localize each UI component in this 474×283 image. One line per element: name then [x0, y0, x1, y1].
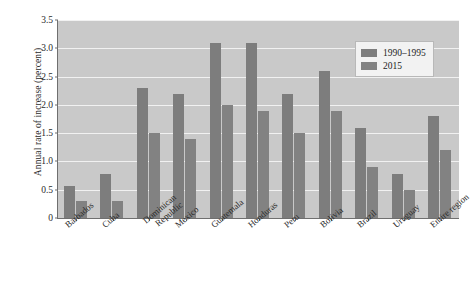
bar: [428, 116, 439, 218]
chart-legend: 1990–1995 2015: [355, 41, 434, 77]
y-tick-label: 3.5: [41, 15, 53, 25]
bar-chart-figure: Annual rate of increase (percent) 00.51.…: [0, 0, 474, 283]
y-tick-label: 1.0: [41, 156, 53, 166]
y-tick-mark: [55, 48, 58, 49]
bar: [210, 43, 221, 218]
bar-group: [313, 20, 349, 218]
bar: [222, 105, 233, 218]
bar: [137, 88, 148, 218]
bar-group: [58, 20, 94, 218]
legend-item-2015: 2015: [361, 59, 426, 72]
y-tick-mark: [55, 218, 58, 219]
y-tick-mark: [55, 133, 58, 134]
bar: [392, 174, 403, 218]
legend-item-1990-1995: 1990–1995: [361, 46, 426, 59]
y-tick-label: 2.0: [41, 100, 53, 110]
y-tick-label: 0.5: [41, 185, 53, 195]
bar: [355, 128, 366, 219]
bar: [100, 174, 111, 218]
y-axis-title: Annual rate of increase (percent): [33, 12, 43, 212]
bar: [282, 94, 293, 218]
y-tick-label: 2.5: [41, 72, 53, 82]
bar: [319, 71, 330, 218]
bar-group: [240, 20, 276, 218]
legend-label-2015: 2015: [383, 61, 402, 71]
legend-swatch-icon-2015: [361, 62, 377, 70]
y-tick-mark: [55, 104, 58, 105]
y-tick-mark: [55, 20, 58, 21]
bar: [294, 133, 305, 218]
bar-group: [167, 20, 203, 218]
bar: [331, 111, 342, 218]
y-tick-label: 1.5: [41, 128, 53, 138]
legend-label-1990-1995: 1990–1995: [383, 48, 426, 58]
y-tick-mark: [55, 161, 58, 162]
y-tick-mark: [55, 189, 58, 190]
bar-group: [204, 20, 240, 218]
x-axis-labels: BarbadosCubaDominicanRepublicMexicoGuate…: [57, 222, 458, 283]
bar-group: [131, 20, 167, 218]
bar-group: [277, 20, 313, 218]
bar: [258, 111, 269, 218]
bar: [246, 43, 257, 218]
legend-swatch-icon-1990-1995: [361, 49, 377, 57]
y-tick-mark: [55, 76, 58, 77]
y-tick-label: 3.0: [41, 43, 53, 53]
bar-group: [94, 20, 130, 218]
y-tick-label: 0: [48, 213, 53, 223]
